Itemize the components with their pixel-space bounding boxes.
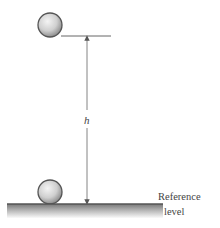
reference-label-line2: level — [164, 206, 184, 217]
diagram-canvas: h Reference level — [0, 0, 220, 228]
ball-ground — [38, 180, 62, 204]
height-label: h — [84, 114, 90, 126]
ball-raised — [38, 13, 62, 37]
reference-label-line1: Reference — [158, 191, 201, 202]
ground-surface — [7, 204, 163, 218]
